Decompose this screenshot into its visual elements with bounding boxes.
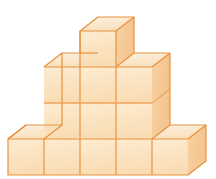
cube-side-faces-middle [152, 53, 170, 139]
cube-row-base [8, 139, 188, 175]
illustration-stage: Ilustrações: Banco de imagens/Arquivo da… [0, 0, 216, 179]
cube-stack-illustration [0, 0, 216, 179]
